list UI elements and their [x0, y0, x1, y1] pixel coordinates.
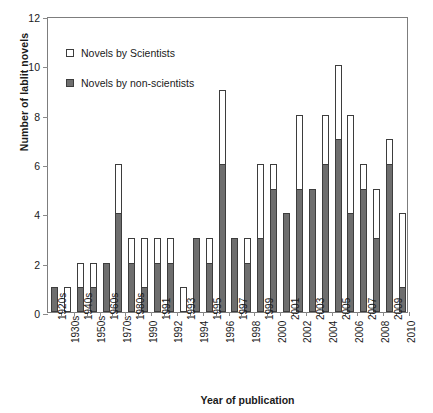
legend-label-scientists: Novels by Scientists — [81, 47, 175, 59]
bar-2009 — [386, 139, 393, 312]
bar-segment-scientists — [335, 65, 342, 139]
bar-1996 — [219, 90, 226, 312]
bar-segment-scientists — [141, 238, 148, 287]
bar-segment-non-scientists — [360, 189, 367, 312]
y-tick-label: 12 — [28, 12, 40, 24]
bar-segment-scientists — [270, 164, 277, 189]
bar-segment-scientists — [244, 238, 251, 263]
legend-item-non-scientists: Novels by non-scientists — [66, 74, 194, 92]
x-tick-mark — [177, 312, 178, 316]
bar-segment-non-scientists — [296, 189, 303, 312]
bar-segment-scientists — [296, 115, 303, 189]
x-tick-label-2004: 2004 — [328, 321, 339, 343]
x-tick-mark — [332, 312, 333, 316]
chart-legend: Novels by Scientists Novels by non-scien… — [66, 44, 194, 104]
x-tick-label-1993: 1993 — [186, 298, 197, 320]
dark-square-icon — [66, 79, 74, 87]
bar-segment-non-scientists — [219, 164, 226, 312]
x-tick-label-2009: 2009 — [393, 298, 404, 320]
bar-segment-scientists — [154, 238, 161, 263]
bar-2000 — [270, 164, 277, 312]
x-tick-label-1997: 1997 — [238, 298, 249, 320]
bar-2001 — [283, 213, 290, 312]
bar-segment-scientists — [373, 189, 380, 238]
x-tick-label-1920s: 1920s — [57, 293, 68, 320]
bar-segment-scientists — [77, 263, 84, 288]
x-tick-mark — [357, 312, 358, 316]
x-tick-label-1999: 1999 — [264, 298, 275, 320]
x-tick-label-1990: 1990 — [148, 321, 159, 343]
bar-2008 — [373, 189, 380, 312]
y-tick-mark — [43, 265, 48, 266]
y-tick-mark — [43, 18, 48, 19]
x-tick-mark — [306, 312, 307, 316]
x-tick-label-2010: 2010 — [406, 321, 417, 343]
bar-2005 — [335, 65, 342, 312]
legend-label-non-scientists: Novels by non-scientists — [81, 77, 194, 89]
bar-segment-non-scientists — [283, 213, 290, 312]
bar-segment-scientists — [206, 238, 213, 263]
x-tick-label-1970s: 1970s — [122, 316, 133, 343]
bar-chart-figure: Number of lablit novels 024681012 1920s1… — [0, 0, 433, 413]
bar-segment-scientists — [360, 164, 367, 189]
y-axis-title: Number of lablit novels — [18, 2, 34, 182]
bar-segment-scientists — [219, 90, 226, 164]
bar-segment-non-scientists — [386, 164, 393, 312]
x-tick-mark — [229, 312, 230, 316]
x-tick-mark — [254, 312, 255, 316]
y-tick-label: 8 — [34, 111, 40, 123]
x-axis-title: Year of publication — [0, 394, 433, 406]
bar-segment-scientists — [167, 238, 174, 263]
x-tick-mark — [203, 312, 204, 316]
bar-segment-scientists — [115, 164, 122, 213]
x-tick-label-1960s: 1960s — [109, 293, 120, 320]
x-tick-label-2002: 2002 — [302, 321, 313, 343]
bar-segment-non-scientists — [270, 189, 277, 312]
x-tick-mark — [409, 312, 410, 316]
bar-segment-non-scientists — [322, 164, 329, 312]
bar-segment-scientists — [257, 164, 264, 238]
bar-2002 — [296, 115, 303, 312]
y-tick-label: 4 — [34, 209, 40, 221]
bar-2003 — [309, 189, 316, 312]
y-tick-mark — [43, 314, 48, 315]
bar-segment-non-scientists — [309, 189, 316, 312]
y-tick-mark — [43, 117, 48, 118]
bar-2006 — [347, 115, 354, 312]
x-tick-label-1994: 1994 — [199, 321, 210, 343]
x-tick-label-1930s: 1930s — [70, 316, 81, 343]
x-tick-label-2006: 2006 — [354, 321, 365, 343]
bar-segment-scientists — [347, 115, 354, 214]
bar-segment-scientists — [128, 238, 135, 263]
bar-segment-scientists — [386, 139, 393, 164]
x-tick-label-1940s: 1940s — [83, 293, 94, 320]
y-tick-label: 0 — [34, 308, 40, 320]
bar-segment-scientists — [90, 263, 97, 288]
bar-segment-scientists — [322, 115, 329, 164]
x-tick-label-1980s: 1980s — [135, 293, 146, 320]
bar-1970s — [115, 164, 122, 312]
x-tick-mark — [151, 312, 152, 316]
x-tick-label-1991: 1991 — [161, 298, 172, 320]
x-tick-mark — [383, 312, 384, 316]
x-tick-label-2007: 2007 — [367, 298, 378, 320]
x-tick-label-2001: 2001 — [290, 298, 301, 320]
x-axis-title-text: Year of publication — [139, 394, 295, 406]
x-tick-mark — [280, 312, 281, 316]
x-tick-label-1950s: 1950s — [96, 316, 107, 343]
x-tick-label-2000: 2000 — [277, 321, 288, 343]
bar-segment-non-scientists — [335, 139, 342, 312]
bar-2004 — [322, 115, 329, 312]
bar-segment-scientists — [399, 213, 406, 287]
y-tick-mark — [43, 67, 48, 68]
x-tick-label-2003: 2003 — [315, 298, 326, 320]
y-tick-label: 2 — [34, 259, 40, 271]
x-tick-label-2005: 2005 — [341, 298, 352, 320]
y-tick-mark — [43, 215, 48, 216]
y-tick-label: 6 — [34, 160, 40, 172]
x-tick-label-1998: 1998 — [251, 321, 262, 343]
y-tick-mark — [43, 166, 48, 167]
light-square-icon — [66, 49, 74, 57]
x-tick-label-2008: 2008 — [380, 321, 391, 343]
bar-2007 — [360, 164, 367, 312]
